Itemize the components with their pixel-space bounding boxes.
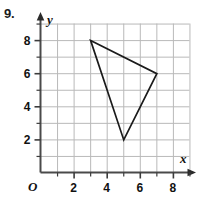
- grid-lines: [41, 24, 190, 173]
- y-tick-label: 8: [24, 34, 31, 48]
- y-axis-tick-labels: 2468: [24, 34, 31, 147]
- y-tick-label: 6: [24, 67, 31, 81]
- x-tick-label: 6: [136, 181, 143, 195]
- y-axis-arrowhead: [37, 12, 45, 21]
- x-tick-label: 4: [103, 181, 110, 195]
- y-tick-label: 4: [24, 100, 31, 114]
- origin-label: O: [28, 179, 38, 194]
- coordinate-grid-figure: 9. 2468 2468 x y O: [0, 0, 203, 200]
- coordinate-plane: 2468 2468 x y O: [0, 0, 203, 200]
- x-tick-label: 8: [170, 181, 177, 195]
- x-axis-arrowhead: [188, 169, 197, 177]
- axis-lines: [37, 12, 196, 176]
- y-tick-label: 2: [24, 133, 31, 147]
- x-axis-tick-labels: 2468: [70, 181, 176, 195]
- x-axis-label: x: [179, 151, 187, 166]
- y-axis-label: y: [45, 12, 53, 27]
- x-tick-label: 2: [70, 181, 77, 195]
